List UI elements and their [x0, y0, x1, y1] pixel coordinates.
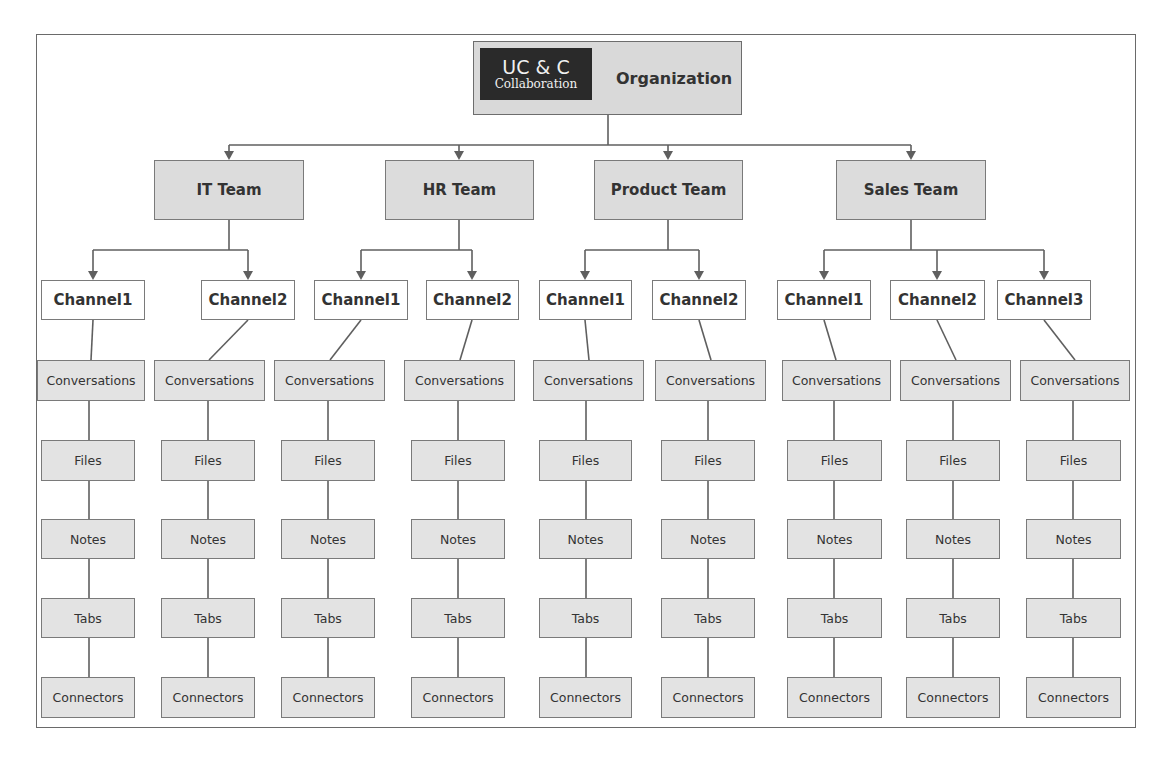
conversations-node: Conversations [274, 360, 385, 401]
notes-node: Notes [1026, 519, 1121, 559]
notes-node: Notes [281, 519, 375, 559]
files-node: Files [661, 440, 755, 481]
team-node-hr: HR Team [385, 160, 534, 220]
connectors-node: Connectors [161, 677, 255, 718]
channel-node: Channel2 [426, 280, 519, 320]
uc-collaboration-logo: UC & C Collaboration [480, 48, 592, 100]
files-node: Files [539, 440, 632, 481]
tabs-node: Tabs [281, 598, 375, 638]
tabs-node: Tabs [787, 598, 882, 638]
tabs-node: Tabs [41, 598, 135, 638]
organization-node: UC & C Collaboration Organization [473, 41, 742, 115]
notes-node: Notes [41, 519, 135, 559]
channel-node: Channel3 [997, 280, 1091, 320]
notes-node: Notes [161, 519, 255, 559]
channel-node: Channel2 [201, 280, 295, 320]
tabs-node: Tabs [906, 598, 1000, 638]
organization-title: Organization [616, 42, 732, 114]
notes-node: Notes [787, 519, 882, 559]
connectors-node: Connectors [281, 677, 375, 718]
team-node-product: Product Team [594, 160, 743, 220]
notes-node: Notes [411, 519, 505, 559]
channel-node: Channel1 [314, 280, 408, 320]
conversations-node: Conversations [782, 360, 891, 401]
conversations-node: Conversations [404, 360, 515, 401]
notes-node: Notes [539, 519, 632, 559]
connectors-node: Connectors [906, 677, 1000, 718]
conversations-node: Conversations [154, 360, 265, 401]
connectors-node: Connectors [787, 677, 882, 718]
conversations-node: Conversations [900, 360, 1011, 401]
tabs-node: Tabs [161, 598, 255, 638]
team-node-sales: Sales Team [836, 160, 986, 220]
conversations-node: Conversations [37, 360, 145, 401]
files-node: Files [41, 440, 135, 481]
files-node: Files [1026, 440, 1121, 481]
notes-node: Notes [906, 519, 1000, 559]
channel-node: Channel2 [890, 280, 985, 320]
connectors-node: Connectors [411, 677, 505, 718]
connectors-node: Connectors [539, 677, 632, 718]
tabs-node: Tabs [411, 598, 505, 638]
connectors-node: Connectors [41, 677, 135, 718]
conversations-node: Conversations [655, 360, 766, 401]
channel-node: Channel2 [652, 280, 746, 320]
logo-line1: UC & C [502, 57, 569, 77]
files-node: Files [787, 440, 882, 481]
conversations-node: Conversations [533, 360, 644, 401]
channel-node: Channel1 [41, 280, 145, 320]
notes-node: Notes [661, 519, 755, 559]
logo-line2: Collaboration [495, 77, 578, 91]
channel-node: Channel1 [777, 280, 871, 320]
files-node: Files [411, 440, 505, 481]
files-node: Files [161, 440, 255, 481]
conversations-node: Conversations [1020, 360, 1130, 401]
files-node: Files [906, 440, 1000, 481]
team-node-it: IT Team [154, 160, 304, 220]
tabs-node: Tabs [539, 598, 632, 638]
connectors-node: Connectors [661, 677, 755, 718]
files-node: Files [281, 440, 375, 481]
tabs-node: Tabs [1026, 598, 1121, 638]
tabs-node: Tabs [661, 598, 755, 638]
connectors-node: Connectors [1026, 677, 1121, 718]
channel-node: Channel1 [539, 280, 632, 320]
